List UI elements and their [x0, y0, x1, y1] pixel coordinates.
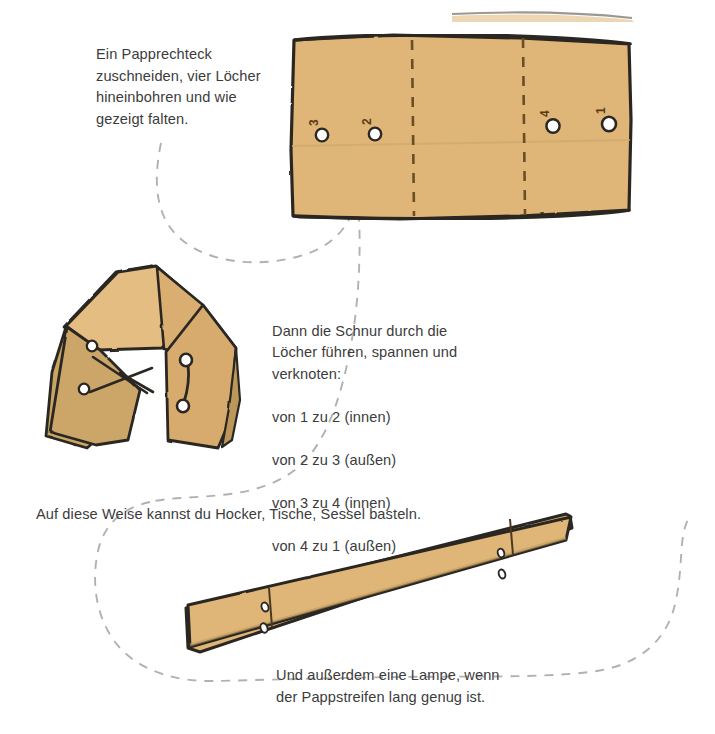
- stool-hole-right-upper: [180, 354, 192, 366]
- stool-string-right: [184, 364, 189, 402]
- strip-hole-left-lower: [259, 622, 268, 633]
- stool-hole-left-upper: [87, 341, 97, 352]
- svg-text:3: 3: [307, 119, 321, 126]
- sheet-hole-3: 3: [307, 119, 328, 141]
- sheet-hole-4: 4: [538, 110, 560, 133]
- fold-line: [412, 38, 525, 216]
- strip-hole-left-upper: [260, 602, 269, 613]
- figure-folded-stool: [46, 266, 240, 448]
- sheet-hole-1: 1: [594, 107, 616, 131]
- figure-flat-sheet: 3 2 4 1: [291, 35, 631, 219]
- caption-step-2-intro: Dann die Schnur durch die Löcher führen,…: [272, 321, 502, 386]
- caption-step-4: Und außerdem eine Lampe, wenn der Pappst…: [276, 665, 556, 708]
- svg-text:1: 1: [594, 107, 608, 114]
- svg-text:2: 2: [360, 118, 374, 125]
- knot-line-4: von 4 zu 1 (außen): [272, 536, 502, 558]
- stool-string-cross: [90, 357, 153, 393]
- svg-text:4: 4: [538, 110, 552, 117]
- caption-step-2: Dann die Schnur durch die Löcher führen,…: [272, 299, 502, 579]
- caption-step-3: Auf diese Weise kannst du Hocker, Tische…: [36, 504, 466, 526]
- top-edge-crop-remnant: [452, 0, 640, 22]
- knot-line-2: von 2 zu 3 (außen): [272, 450, 502, 472]
- knot-line-1: von 1 zu 2 (innen): [272, 407, 502, 429]
- stool-hole-left-lower: [79, 384, 89, 395]
- sheet-hole-2: 2: [360, 118, 381, 140]
- caption-step-1: Ein Papprechteck zuschneiden, vier Löche…: [96, 44, 306, 130]
- illustration-page: 3 2 4 1: [0, 0, 715, 734]
- stool-hole-right-lower: [177, 400, 189, 412]
